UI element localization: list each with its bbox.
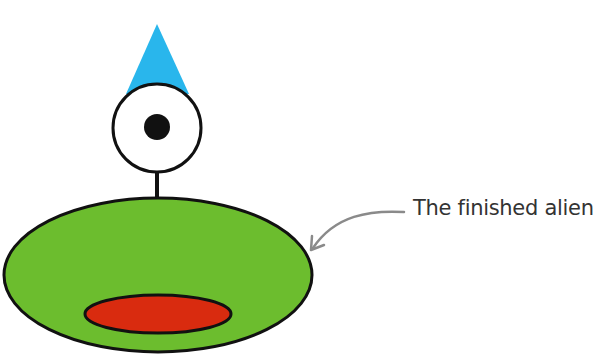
alien-drawing [0,0,597,356]
arrow-icon [313,212,404,248]
caption-label: The finished alien [413,196,594,220]
alien-mouth [85,295,231,333]
alien-pupil [144,114,170,140]
